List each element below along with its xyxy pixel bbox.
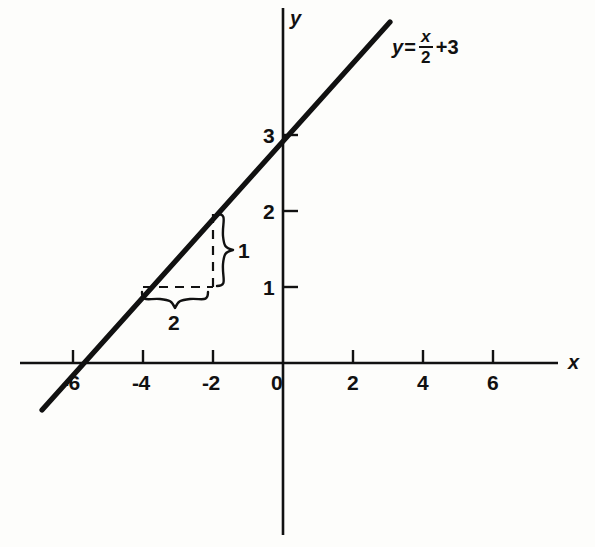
graph-figure: -6 -4 -2 0 2 4 6 1 2 3 x y 1 2 y = x 2 +… (0, 0, 595, 547)
x-tick-label-4: 4 (417, 372, 428, 393)
x-axis-label: x (568, 352, 579, 372)
y-axis-ticks (283, 135, 298, 287)
equation-lhs: y (392, 37, 403, 57)
line-y-equals-x-over-2-plus-3 (42, 22, 390, 410)
equation-equals-sign: = (404, 37, 416, 57)
slope-triangle-dashed (143, 213, 213, 287)
rise-brace (217, 214, 233, 286)
equation-fraction-denominator: 2 (419, 48, 432, 66)
x-tick-label--6: -6 (62, 372, 80, 393)
x-tick-label--4: -4 (132, 372, 150, 393)
graph-canvas (0, 0, 595, 547)
equation-fraction: x 2 (419, 28, 433, 66)
equation-addend: +3 (436, 37, 459, 57)
y-tick-label-1: 1 (263, 277, 274, 298)
y-tick-label-3: 3 (263, 125, 274, 146)
y-tick-label-2: 2 (263, 201, 274, 222)
rise-brace-label: 1 (238, 240, 250, 261)
run-brace-label: 2 (168, 312, 180, 333)
run-brace (142, 292, 208, 308)
x-tick-label-0: 0 (271, 372, 282, 393)
x-tick-label-2: 2 (347, 372, 358, 393)
equation-fraction-numerator: x (419, 28, 432, 46)
x-tick-label-6: 6 (487, 372, 498, 393)
y-axis-label: y (290, 8, 301, 28)
equation-label: y = x 2 +3 (392, 28, 459, 66)
x-tick-label--2: -2 (202, 372, 220, 393)
